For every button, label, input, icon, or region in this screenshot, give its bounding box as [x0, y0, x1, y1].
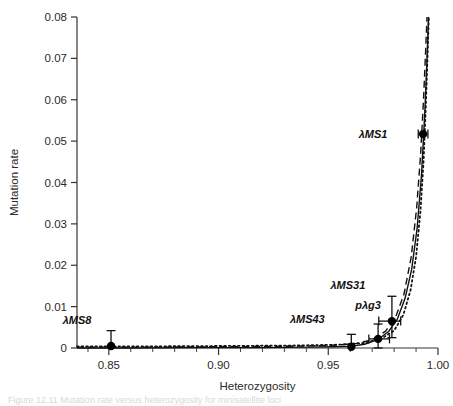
data-point-λMS1[interactable]: λMS1 — [358, 128, 428, 140]
point-label-λMS31: λMS31 — [329, 279, 365, 291]
figure-panel: 00.010.020.030.040.050.060.070.080.850.9… — [0, 0, 453, 406]
y-tick-label-3: 0.03 — [45, 218, 67, 230]
point-label-λMS43: λMS43 — [289, 313, 325, 325]
point-marker — [374, 335, 382, 343]
y-tick-label-5: 0.05 — [45, 135, 67, 147]
x-tick-label-1: 0.90 — [207, 359, 229, 371]
data-point-λMS8[interactable]: λMS8 — [62, 314, 116, 350]
x-tick-label-3: 1.00 — [427, 359, 449, 371]
curve-dotted-curve — [77, 17, 429, 346]
y-tick-label-4: 0.04 — [45, 177, 68, 189]
point-label-λMS8: λMS8 — [62, 314, 93, 326]
point-marker — [419, 130, 427, 138]
point-label-pλg3: pλg3 — [354, 299, 381, 311]
point-label-λMS1: λMS1 — [358, 128, 388, 140]
y-tick-label-8: 0.08 — [45, 11, 67, 23]
x-axis-title: Heterozygosity — [219, 380, 295, 392]
x-tick-label-0: 0.85 — [98, 359, 120, 371]
y-tick-label-0: 0 — [61, 342, 67, 354]
y-axis-title: Mutation rate — [8, 149, 20, 216]
y-tick-label-2: 0.02 — [45, 259, 67, 271]
scatter-plot: 00.010.020.030.040.050.060.070.080.850.9… — [0, 0, 453, 406]
y-tick-label-6: 0.06 — [45, 94, 67, 106]
point-marker — [347, 343, 355, 351]
point-marker — [107, 342, 115, 350]
figure-caption: Figure 12.11 Mutation rate versus hetero… — [8, 394, 448, 406]
y-tick-label-1: 0.01 — [45, 301, 67, 313]
x-tick-label-2: 0.95 — [317, 359, 339, 371]
y-tick-label-7: 0.07 — [45, 52, 67, 64]
point-marker — [388, 317, 396, 325]
curve-dashed-curve — [77, 17, 427, 347]
